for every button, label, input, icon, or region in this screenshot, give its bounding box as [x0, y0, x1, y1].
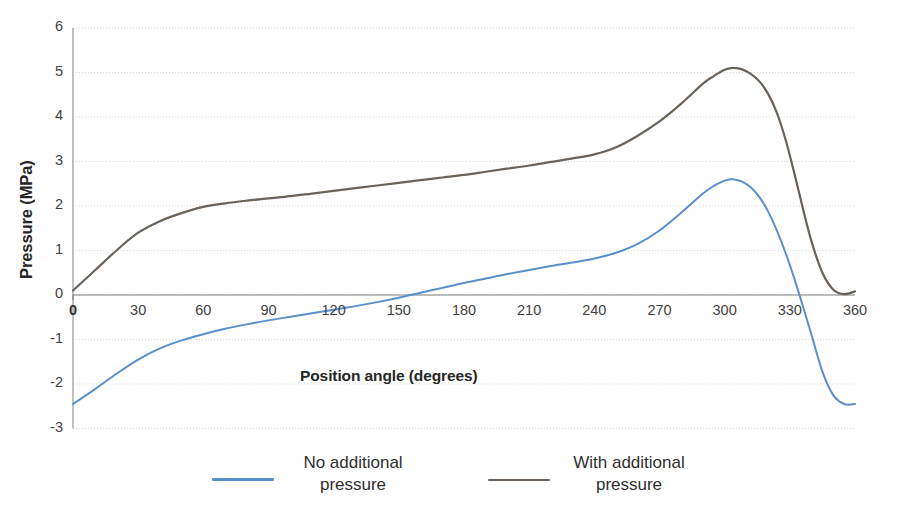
legend-item-no-additional-pressure[interactable]: No additionalpressure	[212, 452, 418, 496]
x-tick-label: 240	[571, 302, 617, 318]
legend-label-line1: With additional	[573, 453, 685, 472]
x-tick-label: 270	[637, 302, 683, 318]
data-series-group	[73, 68, 855, 405]
x-tick-label: 180	[441, 302, 487, 318]
chart-container: Pressure (MPa) Position angle (degrees) …	[0, 0, 906, 524]
legend-swatch-blue	[212, 478, 274, 481]
y-tick-label: -3	[29, 419, 63, 435]
legend-label-line2: pressure	[564, 474, 694, 496]
x-tick-label: 30	[115, 302, 161, 318]
y-tick-label: 2	[29, 196, 63, 212]
x-tick-label: 210	[506, 302, 552, 318]
y-tick-label: 0	[29, 285, 63, 301]
x-tick-label: 150	[376, 302, 422, 318]
y-tick-label: 5	[29, 63, 63, 79]
chart-plot-area	[0, 0, 906, 524]
y-tick-label: -1	[29, 330, 63, 346]
legend-label-line1: No additional	[303, 453, 402, 472]
y-tick-label: -2	[29, 374, 63, 390]
legend-label-no-additional-pressure: No additionalpressure	[288, 452, 418, 496]
legend-item-with-additional-pressure[interactable]: With additionalpressure	[488, 452, 694, 496]
x-tick-label: 60	[180, 302, 226, 318]
y-tick-label: 3	[29, 152, 63, 168]
x-tick-label: 360	[832, 302, 878, 318]
x-tick-label: 330	[767, 302, 813, 318]
legend-swatch-gray	[488, 479, 550, 481]
y-tick-label: 4	[29, 107, 63, 123]
x-tick-label: 300	[702, 302, 748, 318]
x-axis-title: Position angle (degrees)	[300, 367, 478, 385]
chart-legend: No additionalpressure With additionalpre…	[0, 452, 906, 518]
x-tick-label: 0	[50, 302, 96, 318]
y-tick-label: 6	[29, 18, 63, 34]
x-tick-label: 90	[246, 302, 292, 318]
x-tick-label: 120	[311, 302, 357, 318]
legend-label-line2: pressure	[288, 474, 418, 496]
legend-label-with-additional-pressure: With additionalpressure	[564, 452, 694, 496]
y-tick-label: 1	[29, 241, 63, 257]
